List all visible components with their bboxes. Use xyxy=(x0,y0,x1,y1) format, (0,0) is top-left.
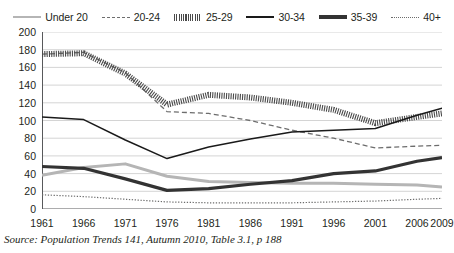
series-line-under-20 xyxy=(42,164,442,187)
legend-label-40-plus: 40+ xyxy=(423,11,441,23)
chart-svg xyxy=(42,32,442,209)
legend-item-40-plus[interactable]: 40+ xyxy=(391,11,441,23)
x-axis-tick-label: 1991 xyxy=(280,218,303,229)
y-axis-labels: 200180160140120100806040200 xyxy=(0,26,40,216)
line-swatch-30-34-icon xyxy=(246,12,274,22)
y-axis-tick-label: 180 xyxy=(18,45,36,55)
y-axis-tick-label: 160 xyxy=(18,62,36,72)
chart-legend: Under 20 20-24 25-29 30-34 35-39 40+ xyxy=(0,8,454,26)
x-axis-tick-label: 1961 xyxy=(30,218,53,229)
series-line-30-34 xyxy=(42,108,442,158)
legend-label-under-20: Under 20 xyxy=(45,11,87,23)
chart-canvas xyxy=(42,32,442,209)
chart-figure: Under 20 20-24 25-29 30-34 35-39 40+ 200… xyxy=(0,0,454,253)
y-axis-tick-label: 60 xyxy=(24,151,36,161)
legend-item-20-24[interactable]: 20-24 xyxy=(102,11,160,23)
legend-item-25-29[interactable]: 25-29 xyxy=(174,11,232,23)
line-swatch-under-20-icon xyxy=(13,12,41,22)
source-note: Source: Population Trends 141, Autumn 20… xyxy=(4,233,282,245)
y-axis-tick-label: 0 xyxy=(30,204,36,214)
y-axis-tick-label: 20 xyxy=(24,186,36,196)
series-line-25-29 xyxy=(42,53,442,123)
y-axis-tick-label: 100 xyxy=(18,116,36,126)
legend-label-20-24: 20-24 xyxy=(134,11,160,23)
y-axis-tick-label: 200 xyxy=(18,27,36,37)
x-axis-tick-label: 2009 xyxy=(430,218,453,229)
line-swatch-25-29-icon xyxy=(174,12,202,22)
legend-label-25-29: 25-29 xyxy=(206,11,232,23)
line-swatch-35-39-icon xyxy=(319,12,347,22)
x-axis-tick-label: 1971 xyxy=(114,218,137,229)
legend-item-35-39[interactable]: 35-39 xyxy=(319,11,377,23)
y-axis-tick-label: 40 xyxy=(24,169,36,179)
legend-label-30-34: 30-34 xyxy=(278,11,304,23)
legend-label-35-39: 35-39 xyxy=(351,11,377,23)
x-axis-tick-label: 2001 xyxy=(364,218,387,229)
series-line-40 xyxy=(42,195,442,203)
line-swatch-40-plus-icon xyxy=(391,12,419,22)
x-axis-tick-label: 1986 xyxy=(239,218,262,229)
series-line-20-24 xyxy=(42,52,442,148)
y-axis-tick-label: 140 xyxy=(18,80,36,90)
legend-item-under-20[interactable]: Under 20 xyxy=(13,11,87,23)
x-axis-tick-label: 1976 xyxy=(155,218,178,229)
line-swatch-20-24-icon xyxy=(102,12,130,22)
y-axis-tick-label: 80 xyxy=(24,133,36,143)
x-axis-tick-label: 1966 xyxy=(72,218,95,229)
y-axis-tick-label: 120 xyxy=(18,98,36,108)
x-axis-labels: 1961196619711976198119861991199620012006… xyxy=(42,216,442,234)
x-axis-tick-label: 1996 xyxy=(322,218,345,229)
x-axis-tick-label: 2006 xyxy=(405,218,428,229)
legend-item-30-34[interactable]: 30-34 xyxy=(246,11,304,23)
chart-plot-area: 200180160140120100806040200 196119661971… xyxy=(0,26,454,216)
x-axis-tick-label: 1981 xyxy=(197,218,220,229)
